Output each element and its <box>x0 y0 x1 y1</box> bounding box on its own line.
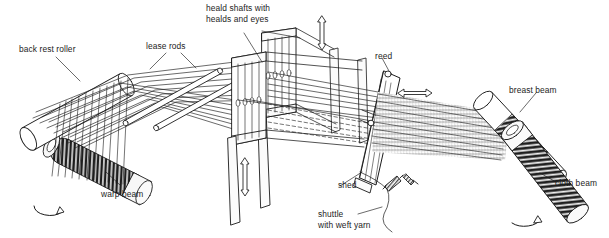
label-breast-beam: breast beam <box>509 85 557 95</box>
label-lease-rods: lease rods <box>146 41 186 51</box>
heald-shaft-vertical-arrow-front <box>241 158 249 196</box>
label-shuttle-line2: with weft yarn <box>318 220 371 230</box>
label-heald-shafts-line1: heald shafts with <box>206 3 270 13</box>
loom-diagram: back rest roller lease rods heald shafts… <box>0 0 609 238</box>
heald-shaft-far-posts <box>330 48 368 143</box>
shuttle-group <box>383 174 418 191</box>
label-shed: shed <box>338 180 357 190</box>
label-reed: reed <box>375 51 392 61</box>
label-shuttle-line1: shuttle <box>318 209 343 219</box>
reed-horizontal-arrow <box>398 89 432 97</box>
label-cloth-beam: cloth beam <box>555 178 597 188</box>
loom-illustration <box>0 0 609 238</box>
heald-shaft-vertical-arrow-rear <box>318 16 326 50</box>
cloth-beam-group <box>498 117 591 226</box>
label-heald-shafts-line2: healds and eyes <box>206 14 269 24</box>
label-back-rest-roller: back rest roller <box>19 44 76 54</box>
label-warp-beam: warp beam <box>101 189 143 199</box>
